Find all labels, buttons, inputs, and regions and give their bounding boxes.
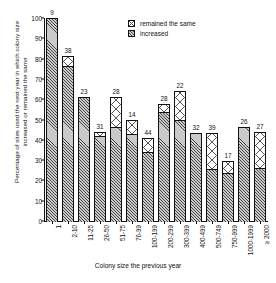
x-tick-mark (260, 221, 261, 224)
x-tick-mark (244, 221, 245, 224)
x-tick-label: 26-50 (103, 225, 110, 241)
x-tick-label: 500-749 (215, 225, 222, 248)
bar-group: 28 (158, 18, 170, 221)
x-tick-mark (116, 221, 117, 224)
bar-stack (46, 18, 58, 221)
bar-value-label: 32 (192, 124, 199, 131)
bar-group: 26 (238, 18, 250, 221)
x-tick-mark (100, 221, 101, 224)
x-tick-mark (84, 221, 85, 224)
bar-segment-remained-the-same (175, 92, 185, 120)
x-tick-mark (132, 221, 133, 224)
bar-stack (254, 132, 266, 221)
x-tick-label: 51-75 (119, 225, 126, 241)
bar-group: 31 (94, 18, 106, 221)
bar-segment-increased (207, 170, 217, 222)
bar-group: 23 (78, 18, 90, 221)
x-tick-mark (164, 221, 165, 224)
bar-stack (94, 132, 106, 221)
x-tick-label: 1 (55, 225, 62, 229)
x-tick-label: ≥ 2000 (263, 225, 270, 244)
bar-segment-remained-the-same (207, 134, 217, 171)
bar-segment-increased (127, 135, 137, 222)
bar-stack (206, 133, 218, 221)
plot-area: 0102030405060708090100 93823312814442822… (44, 18, 268, 221)
y-axis-title: Percentage of sites used the next year i… (13, 7, 29, 197)
bar-value-label: 27 (256, 123, 263, 130)
bar-value-label: 17 (224, 152, 231, 159)
bar-segment-remained-the-same (223, 162, 233, 174)
x-tick-mark (180, 221, 181, 224)
bar-group: 9 (46, 18, 58, 221)
bar-group: 28 (110, 18, 122, 221)
bar-value-label: 22 (176, 82, 183, 89)
bar-value-label: 28 (160, 95, 167, 102)
x-tick-mark (212, 221, 213, 224)
bar-segment-increased (255, 169, 265, 222)
bar-segment-remained-the-same (159, 105, 169, 113)
bar-group: 17 (222, 18, 234, 221)
x-tick-label: 300-399 (183, 225, 190, 248)
bar-segment-increased (111, 128, 121, 222)
bar-stack (110, 97, 122, 221)
bar-stack (238, 127, 250, 221)
bar-stack (158, 104, 170, 221)
bar-stack (78, 97, 90, 221)
x-tick-label: 400-499 (199, 225, 206, 248)
bar-group: 32 (190, 18, 202, 221)
x-tick-label: 200-299 (167, 225, 174, 248)
bar-stack (222, 161, 234, 221)
x-tick-label: 2-10 (71, 225, 78, 238)
bar-segment-increased (239, 128, 249, 222)
x-axis-title: Colony size the previous year (0, 262, 276, 269)
bar-series-group: 938233128144428223239172627 (44, 18, 268, 221)
bar-stack (126, 120, 138, 222)
x-tick-label: 76-99 (135, 225, 142, 241)
bar-segment-remained-the-same (111, 98, 121, 127)
bar-value-label: 38 (64, 47, 71, 54)
bar-group: 14 (126, 18, 138, 221)
bar-group: 39 (206, 18, 218, 221)
bar-value-label: 26 (240, 118, 247, 125)
x-tick-mark (68, 221, 69, 224)
bar-stack (174, 91, 186, 221)
bar-segment-remained-the-same (143, 139, 153, 153)
bar-value-label: 31 (96, 123, 103, 130)
bar-segment-increased (175, 121, 185, 223)
bar-stack (190, 133, 202, 221)
bar-segment-increased (159, 113, 169, 222)
bar-segment-increased (95, 137, 105, 222)
x-tick-label: 100-199 (151, 225, 158, 248)
x-tick-label: 750-999 (231, 225, 238, 248)
bar-segment-increased (47, 19, 57, 222)
bar-segment-increased (79, 98, 89, 222)
bar-segment-increased (63, 67, 73, 222)
x-tick-mark (228, 221, 229, 224)
bar-group: 44 (142, 18, 154, 221)
bar-stack (62, 56, 74, 221)
bar-segment-remained-the-same (255, 133, 265, 170)
bar-segment-increased (143, 153, 153, 222)
bar-value-label: 14 (128, 111, 135, 118)
x-axis-line (44, 221, 268, 222)
bar-value-label: 9 (50, 9, 54, 16)
bar-segment-increased (223, 174, 233, 222)
bar-segment-remained-the-same (127, 121, 137, 135)
bar-stack (142, 138, 154, 221)
bar-group: 38 (62, 18, 74, 221)
bar-segment-remained-the-same (63, 57, 73, 67)
chart-container: Percentage of sites used the next year i… (0, 0, 276, 283)
bar-group: 27 (254, 18, 266, 221)
x-tick-mark (196, 221, 197, 224)
x-tick-mark (148, 221, 149, 224)
bar-value-label: 23 (80, 88, 87, 95)
x-tick-mark (52, 221, 53, 224)
bar-segment-increased (191, 134, 201, 222)
x-tick-label: 11-25 (87, 225, 94, 241)
x-tick-label: 1000-1999 (247, 225, 254, 255)
bar-value-label: 28 (112, 88, 119, 95)
bar-group: 22 (174, 18, 186, 221)
bar-value-label: 44 (144, 129, 151, 136)
bar-value-label: 39 (208, 124, 215, 131)
